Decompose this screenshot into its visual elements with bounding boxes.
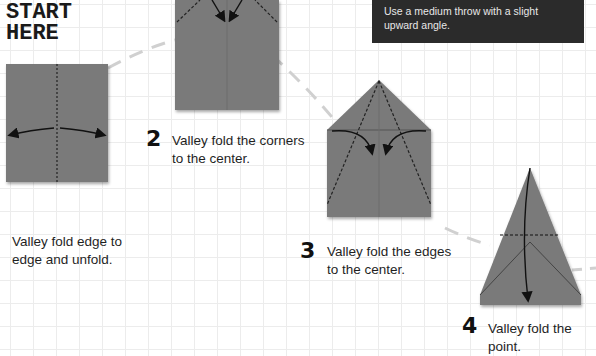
step1-caption: Valley fold edge to edge and unfold. bbox=[12, 233, 122, 269]
step4-line1: Valley fold the point. bbox=[488, 320, 596, 356]
tip-line1: Use a medium throw with a slight bbox=[384, 4, 574, 18]
step3-number: 3 bbox=[300, 240, 315, 262]
step1-line1: Valley fold edge to bbox=[12, 233, 122, 251]
start-here-heading: START HERE bbox=[6, 2, 72, 44]
step1-line2: edge and unfold. bbox=[12, 251, 122, 269]
start-here-line1: START bbox=[6, 2, 72, 23]
step3-line2: to the center. bbox=[327, 261, 451, 279]
step4-number: 4 bbox=[462, 315, 477, 337]
start-here-line2: HERE bbox=[6, 23, 72, 44]
step3-line1: Valley fold the edges bbox=[327, 243, 451, 261]
step2-caption: Valley fold the corners to the center. bbox=[172, 132, 305, 168]
step3-caption: Valley fold the edges to the center. bbox=[327, 243, 451, 279]
step2-line2: to the center. bbox=[172, 150, 305, 168]
step2-line1: Valley fold the corners bbox=[172, 132, 305, 150]
throw-tip-box: Use a medium throw with a slight upward … bbox=[372, 0, 584, 43]
step2-number: 2 bbox=[146, 128, 161, 150]
tip-line2: upward angle. bbox=[384, 18, 574, 32]
step4-caption: Valley fold the point. bbox=[488, 320, 596, 356]
